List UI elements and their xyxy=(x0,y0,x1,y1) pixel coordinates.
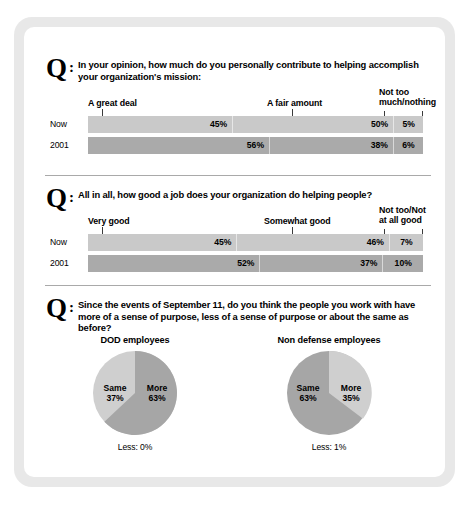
infographic-frame: Q : In your opinion, how much do you per… xyxy=(14,17,455,487)
pie-chart-non-defense: Same 63% More 35% xyxy=(286,350,372,436)
pie-footnote-non-defense: Less: 1% xyxy=(254,442,404,452)
column-label-great-deal: A great deal xyxy=(88,98,137,108)
pie-slice-name-more: More xyxy=(341,383,362,393)
column-label-fair-amount: A fair amount xyxy=(267,98,322,108)
bar-row-label-now: Now xyxy=(50,234,84,251)
bar-segment-value: 7% xyxy=(390,234,423,251)
bar-row-label-2001: 2001 xyxy=(50,255,84,272)
column-label-not-too-much: Not too much/nothing xyxy=(379,87,436,108)
bar-segment: 6% xyxy=(393,137,423,154)
question-header: Q : In your opinion, how much do you per… xyxy=(46,57,429,82)
bar-segment-value: 5% xyxy=(394,116,423,133)
bar-segment: 5% xyxy=(393,116,423,133)
bar-segment-value: 38% xyxy=(371,137,388,154)
bar-row-label-2001: 2001 xyxy=(50,137,84,154)
bar-segment: 37% xyxy=(259,255,382,272)
pie-slice-name-same: Same xyxy=(104,383,127,393)
bar-row-2001: 2001 52% 37% 10% xyxy=(24,255,445,272)
column-label-somewhat-good: Somewhat good xyxy=(264,216,331,226)
column-labels: Very good Somewhat good Not too/Not at a… xyxy=(24,208,445,234)
pie-chart-dod: Same 37% More 63% xyxy=(92,350,178,436)
column-label-very-good: Very good xyxy=(88,216,130,226)
question-header: Q : All in all, how good a job does your… xyxy=(46,187,429,209)
question-text: Since the events of September 11, do you… xyxy=(78,297,429,334)
pie-slice-value-more: 35% xyxy=(342,393,359,403)
stacked-bar-2001: 52% 37% 10% xyxy=(88,255,423,272)
bar-segment-value: 46% xyxy=(367,234,384,251)
pie-title-non-defense: Non defense employees xyxy=(254,335,404,345)
bar-segment: 52% xyxy=(88,255,259,272)
bar-segment: 45% xyxy=(88,116,232,133)
bar-segment-value: 45% xyxy=(210,116,227,133)
pie-slice-label-same: Same 37% xyxy=(96,383,134,403)
question-mark-letter: Q xyxy=(46,297,67,319)
stacked-bar-now: 45% 50% 5% xyxy=(88,116,423,133)
pie-slice-name-more: More xyxy=(147,383,168,393)
tick-mark-somewhat-good xyxy=(292,227,293,234)
bar-row-now: Now 45% 46% 7% xyxy=(24,234,445,251)
question-text: In your opinion, how much do you persona… xyxy=(78,57,429,82)
question-mark-colon: : xyxy=(69,57,74,77)
question-mark-colon: : xyxy=(69,187,74,207)
question-mark-letter: Q xyxy=(46,187,67,209)
pie-footnote-dod: Less: 0% xyxy=(60,442,210,452)
question-mark-letter: Q xyxy=(46,57,67,79)
question-mark-colon: : xyxy=(69,297,74,317)
pie-block-dod: DOD employees Same 37% More 63% xyxy=(60,335,210,452)
bar-segment: 10% xyxy=(382,255,423,272)
section-divider xyxy=(45,175,431,176)
bar-segment-value: 37% xyxy=(360,255,377,272)
section-divider xyxy=(45,285,431,286)
tick-mark-fair-amount xyxy=(292,109,293,116)
bar-segment: 50% xyxy=(232,116,393,133)
bar-segment-value: 6% xyxy=(394,137,423,154)
bar-segment: 7% xyxy=(389,234,423,251)
bar-segment-value: 50% xyxy=(371,116,388,133)
pie-slice-value-more: 63% xyxy=(148,393,165,403)
column-label-not-too-good: Not too/Not at all good xyxy=(379,205,426,226)
pie-title-dod: DOD employees xyxy=(60,335,210,345)
pie-slice-label-more: More 63% xyxy=(138,383,176,403)
bar-segment: 46% xyxy=(236,234,389,251)
question-header: Q : Since the events of September 11, do… xyxy=(46,297,429,334)
pie-slice-label-more: More 35% xyxy=(332,383,370,403)
bar-segment: 56% xyxy=(88,137,269,154)
pie-block-non-defense: Non defense employees Same 63% More xyxy=(254,335,404,452)
bar-segment-value: 56% xyxy=(247,137,264,154)
pie-slice-value-same: 37% xyxy=(106,393,123,403)
bar-segment-value: 10% xyxy=(383,255,423,272)
column-labels: A great deal A fair amount Not too much/… xyxy=(24,90,445,116)
question-text: All in all, how good a job does your org… xyxy=(78,187,372,201)
bar-segment-value: 52% xyxy=(237,255,254,272)
pie-slice-value-same: 63% xyxy=(299,393,316,403)
bar-segment: 38% xyxy=(269,137,393,154)
stacked-bar-now: 45% 46% 7% xyxy=(88,234,423,251)
infographic-card: Q : In your opinion, how much do you per… xyxy=(24,27,445,477)
bar-segment-value: 45% xyxy=(214,234,231,251)
pie-slice-name-same: Same xyxy=(297,383,320,393)
bar-row-now: Now 45% 50% 5% xyxy=(24,116,445,133)
tick-mark-great-deal xyxy=(102,109,103,116)
bar-row-2001: 2001 56% 38% 6% xyxy=(24,137,445,154)
pie-slice-label-same: Same 63% xyxy=(288,383,328,403)
tick-mark-very-good xyxy=(102,227,103,234)
bar-row-label-now: Now xyxy=(50,116,84,133)
bar-segment: 45% xyxy=(88,234,236,251)
stacked-bar-2001: 56% 38% 6% xyxy=(88,137,423,154)
